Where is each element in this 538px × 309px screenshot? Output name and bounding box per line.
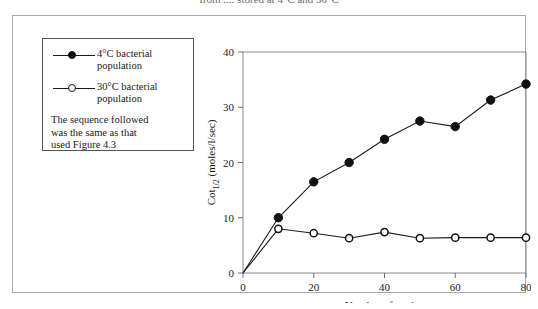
y-tick-label: 0 [229,267,235,279]
data-point [522,234,529,241]
y-tick-label: 40 [223,46,235,58]
data-point [310,178,318,186]
data-point [416,235,423,242]
x-axis-title: Number of strains [345,299,424,303]
legend-item-30c-line1: 30°C bacterial [97,81,157,92]
data-series [243,80,530,273]
data-point [275,225,282,232]
x-tick-label: 40 [379,281,391,293]
x-axis-ticks: 020406080 [240,273,531,293]
data-point [345,158,353,166]
x-tick-label: 0 [240,281,246,293]
data-point [380,135,388,143]
x-tick-label: 20 [308,281,320,293]
chart-plot-area: 010203040 020406080 Number of strainsCot… [201,38,531,303]
series-line-4c [243,84,526,273]
y-tick-label: 10 [223,212,235,224]
caption-text: from .... stored at 4°C and 30°C [0,0,538,5]
legend-item-4c-label: 4°C bacterial population [97,48,152,72]
legend-item-4c: 4°C bacterial population [51,48,185,72]
y-tick-label: 30 [223,101,235,113]
y-tick-label: 20 [223,157,235,169]
plot-frame [243,52,526,273]
legend-item-4c-line2: population [97,60,142,71]
data-point [452,234,459,241]
x-tick-label: 60 [450,281,462,293]
legend-note-line1: The sequence followed [51,114,148,125]
caption-fragment: from .... stored at 4°C and 30°C [0,0,538,9]
data-point [310,230,317,237]
data-point [381,229,388,236]
legend-item-30c-label: 30°C bacterial population [97,81,157,105]
legend-note: The sequence followed was the same as th… [51,114,185,152]
open-circle-marker-icon [51,82,97,95]
axis-titles: Number of strainsCot1/2 (moles/l/sec) [205,119,424,303]
data-point [451,122,459,130]
filled-circle-marker-icon [51,49,97,62]
y-axis-title: Cot1/2 (moles/l/sec) [205,119,221,205]
legend-item-30c: 30°C bacterial population [51,81,185,105]
line-chart: 010203040 020406080 Number of strainsCot… [201,38,531,303]
data-point [522,80,530,88]
chart-legend: 4°C bacterial population 30°C bacterial … [42,38,194,151]
legend-item-30c-line2: population [97,93,142,104]
figure-frame: 4°C bacterial population 30°C bacterial … [12,15,526,293]
legend-item-4c-line1: 4°C bacterial [97,48,152,59]
y-axis-ticks: 010203040 [223,46,243,279]
legend-note-line3: used Figure 4.3 [51,139,116,150]
data-point [487,234,494,241]
data-point [346,235,353,242]
data-point [416,117,424,125]
data-point [486,96,494,104]
legend-note-line2: was the same as that [51,127,137,138]
x-tick-label: 80 [521,281,532,293]
data-point [274,214,282,222]
